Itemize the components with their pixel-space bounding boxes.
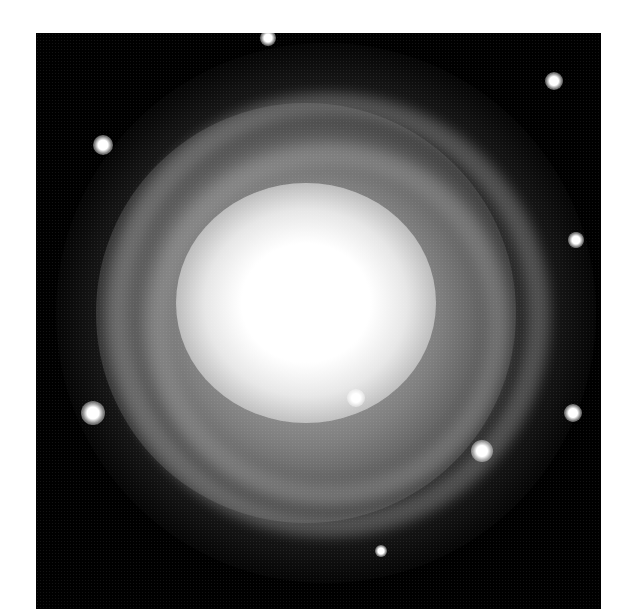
photo-grain [36,33,601,609]
galaxy-photo [36,33,601,609]
